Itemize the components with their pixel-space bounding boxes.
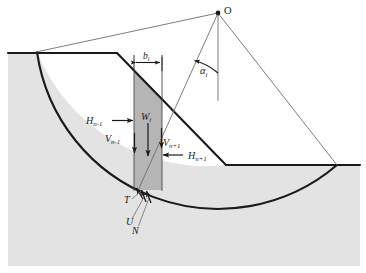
slope-stability-diagram: O αi bi Wi Hn-1 Vn-1 Vn+1 Hn+1 T [0,0,366,273]
center-of-rotation-point [216,11,221,16]
label-center-of-rotation: O [224,5,232,16]
label-normal-force: N [131,225,140,236]
figure-canvas: O αi bi Wi Hn-1 Vn-1 Vn+1 Hn+1 T [0,0,366,273]
